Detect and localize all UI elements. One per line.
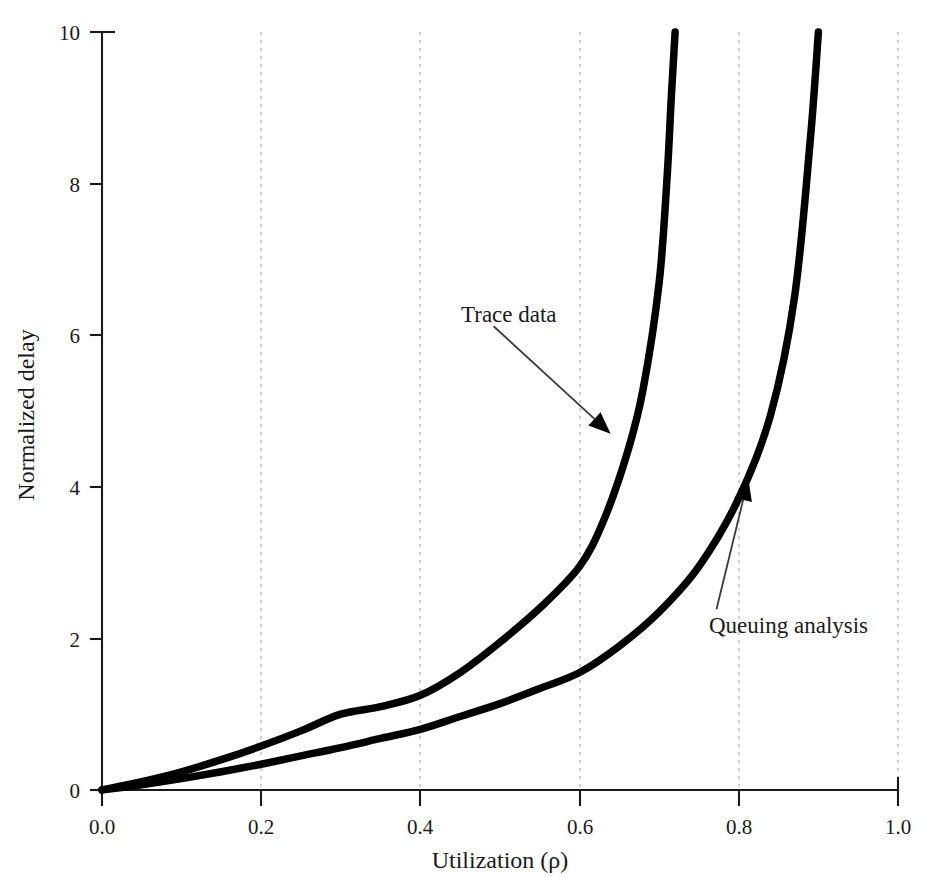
figure-background (0, 0, 934, 877)
y-axis-title: Normalized delay (13, 329, 39, 500)
annotation-label-queuing-analysis: Queuing analysis (709, 613, 868, 638)
x-tick-label-0.8: 0.8 (726, 815, 752, 839)
chart-figure: 10 8 6 4 2 0 0.0 0.2 0.4 0.6 0.8 1.0 Uti… (0, 0, 934, 877)
figure-page: 10 8 6 4 2 0 0.0 0.2 0.4 0.6 0.8 1.0 Uti… (0, 0, 934, 877)
y-tick-label-6: 6 (70, 324, 81, 348)
y-tick-label-2: 2 (70, 628, 81, 652)
x-tick-label-1.0: 1.0 (885, 815, 911, 839)
y-tick-label-10: 10 (59, 21, 80, 45)
x-axis-title: Utilization (ρ) (432, 847, 569, 873)
y-tick-label-4: 4 (70, 476, 81, 500)
y-tick-label-0: 0 (70, 779, 81, 803)
x-tick-label-0.0: 0.0 (89, 815, 115, 839)
x-tick-label-0.2: 0.2 (248, 815, 274, 839)
x-tick-label-0.6: 0.6 (567, 815, 593, 839)
x-tick-label-0.4: 0.4 (407, 815, 434, 839)
annotation-label-trace-data: Trace data (461, 302, 557, 327)
y-tick-label-8: 8 (70, 173, 81, 197)
